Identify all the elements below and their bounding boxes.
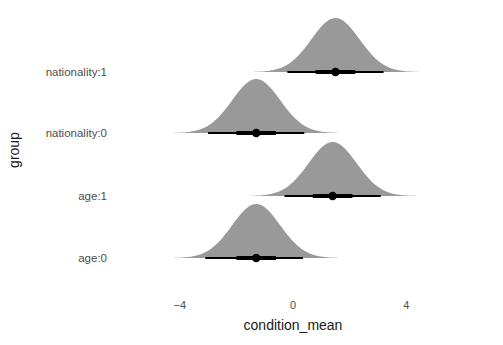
density-age-0: [115, 204, 412, 258]
point-estimate: [328, 192, 337, 201]
y-tick-label: age:1: [78, 190, 107, 202]
x-axis-ticks: −404: [174, 299, 410, 311]
y-tick-label: nationality:0: [46, 127, 107, 139]
y-axis-title: group: [6, 132, 22, 168]
density-nationality-0: [115, 79, 387, 133]
density-nationality-1: [194, 18, 471, 72]
x-tick-label: 0: [290, 299, 296, 311]
y-tick-label: nationality:1: [46, 66, 107, 78]
density-age-1: [191, 142, 468, 196]
point-estimate: [252, 254, 261, 263]
density-layer: [115, 18, 472, 258]
point-estimate: [331, 68, 340, 77]
y-tick-label: age:0: [78, 252, 107, 264]
x-tick-label: 4: [403, 299, 409, 311]
halfeye-chart: nationality:1nationality:0age:1age:0 −40…: [0, 0, 503, 345]
x-axis-title: condition_mean: [244, 317, 343, 333]
y-axis-labels: nationality:1nationality:0age:1age:0: [46, 66, 107, 264]
point-estimate: [252, 129, 261, 138]
x-tick-label: −4: [174, 299, 187, 311]
